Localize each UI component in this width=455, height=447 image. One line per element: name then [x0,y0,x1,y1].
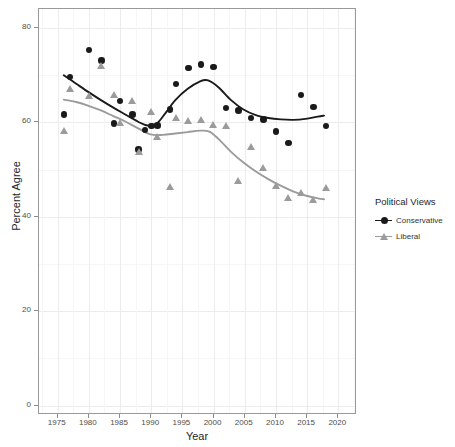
gridline-vertical [338,9,339,413]
data-point-conservative [86,47,93,54]
data-point-liberal [259,164,267,171]
data-point-liberal [97,62,105,69]
data-point-liberal [322,184,330,191]
trend-line-conservative [64,75,324,125]
y-axis-title: Percent Agree [10,131,22,261]
data-point-liberal [116,119,124,126]
gridline-vertical [120,9,121,413]
y-axis-tick [34,216,38,217]
trend-line-liberal [64,100,324,200]
gridline-vertical [151,9,152,413]
data-point-conservative [248,115,255,122]
chart-root: 020406080 197519801985199019952000200520… [0,0,455,447]
data-point-liberal [147,108,155,115]
data-point-liberal [166,183,174,190]
legend-item-liberal[interactable]: Liberal [375,229,455,243]
y-axis-tick-label: 60 [3,117,31,125]
legend-key-triangle-icon [375,230,392,243]
data-point-liberal [234,177,242,184]
data-point-conservative [198,61,205,68]
data-point-liberal [297,189,305,196]
gridline-vertical [89,9,90,413]
data-point-conservative [323,123,330,130]
data-point-liberal [209,121,217,128]
data-point-conservative [273,128,280,135]
data-point-liberal [184,117,192,124]
y-axis-tick [34,405,38,406]
data-point-conservative [117,98,124,105]
gridline-vertical [354,9,355,413]
gridline-vertical [73,9,74,413]
data-point-conservative [235,107,242,114]
data-point-conservative [185,65,192,72]
gridline-vertical [292,9,293,413]
data-point-liberal [284,194,292,201]
gridline-vertical [260,9,261,413]
gridline-vertical [198,9,199,413]
y-axis-tick-label: 80 [3,23,31,31]
y-axis-tick [34,310,38,311]
x-axis-tick-label: 2020 [317,419,357,427]
data-point-liberal [197,116,205,123]
data-point-conservative [154,122,161,129]
gridline-vertical [58,9,59,413]
data-point-liberal [66,85,74,92]
data-point-conservative [260,116,267,123]
legend-label-conservative: Conservative [396,216,443,225]
gridline-vertical [42,9,43,413]
data-point-liberal [153,133,161,140]
gridline-vertical [182,9,183,413]
data-point-liberal [85,92,93,99]
data-point-liberal [172,114,180,121]
data-point-liberal [272,182,280,189]
x-axis-title: Year [38,430,356,442]
legend-key-circle-icon [375,214,392,227]
legend-item-conservative[interactable]: Conservative [375,213,455,227]
data-point-conservative [173,81,180,88]
y-axis-tick [34,121,38,122]
gridline-vertical [276,9,277,413]
data-point-liberal [309,196,317,203]
data-point-conservative [61,111,68,118]
legend-label-liberal: Liberal [396,232,420,241]
data-point-conservative [210,64,217,71]
y-axis-tick [34,27,38,28]
legend-title: Political Views [375,196,455,207]
y-axis-tick-label: 0 [3,401,31,409]
legend: Political Views Conservative Liberal [375,196,455,245]
data-point-conservative [298,92,305,99]
gridline-vertical [323,9,324,413]
data-point-liberal [247,143,255,150]
data-point-liberal [222,122,230,129]
gridline-vertical [307,9,308,413]
data-point-conservative [167,106,174,113]
data-point-liberal [135,148,143,155]
y-axis-tick-label: 20 [3,306,31,314]
gridline-vertical [245,9,246,413]
gridline-vertical [136,9,137,413]
data-point-conservative [142,127,149,134]
data-point-conservative [285,140,292,147]
data-point-liberal [110,91,118,98]
data-point-liberal [60,127,68,134]
data-point-conservative [310,104,317,111]
plot-panel [38,8,356,414]
data-point-liberal [128,97,136,104]
gridline-vertical [104,9,105,413]
gridline-vertical [229,9,230,413]
data-point-conservative [129,111,136,118]
gridline-vertical [167,9,168,413]
